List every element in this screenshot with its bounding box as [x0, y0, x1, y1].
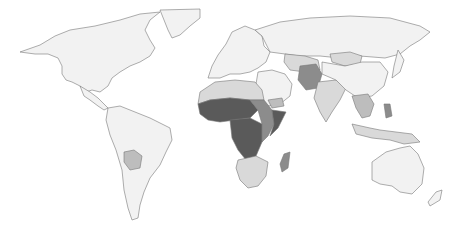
- region-india: [314, 80, 346, 122]
- region-central-africa: [230, 118, 262, 160]
- region-southeast-asia: [352, 94, 374, 118]
- region-madagascar: [280, 152, 290, 172]
- region-new-zealand: [428, 190, 442, 206]
- region-southern-africa: [236, 156, 268, 188]
- region-russia: [255, 16, 430, 58]
- world-choropleth-map: [0, 0, 460, 229]
- region-greenland: [160, 9, 200, 38]
- map-canvas: [0, 0, 460, 229]
- region-indonesia: [352, 124, 420, 144]
- region-philippines: [384, 104, 392, 118]
- region-australia: [372, 146, 424, 194]
- region-yemen: [268, 98, 284, 108]
- region-north-america: [20, 12, 160, 92]
